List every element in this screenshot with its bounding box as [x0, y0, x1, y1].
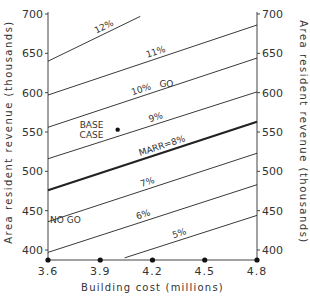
- x-axis-marker: [254, 257, 259, 262]
- base-case-point: [115, 127, 119, 131]
- y-tick-label-right: 700: [262, 8, 283, 21]
- annotation-no-go: NO GO: [50, 215, 81, 225]
- x-tick-label: 3.6: [38, 265, 59, 278]
- annotation-go: GO: [159, 79, 173, 89]
- chart: 4004004504505005005505506006006506507007…: [0, 0, 310, 296]
- iso-line-7: [48, 153, 257, 221]
- x-tick-label: 4.5: [195, 265, 216, 278]
- x-axis-marker: [150, 257, 155, 262]
- x-axis-marker: [45, 257, 50, 262]
- iso-line-11: [48, 25, 257, 95]
- line-label: 12%: [93, 18, 116, 36]
- line-label: MARR=8%: [138, 133, 187, 158]
- iso-line-12: [48, 16, 140, 61]
- y-axis-title-left: Area resident revenue (thousands): [3, 20, 14, 244]
- y-tick-label-left: 450: [22, 205, 43, 218]
- y-axis-title-right: Area resident revenue (thousands): [298, 20, 309, 244]
- line-label: 11%: [145, 44, 168, 60]
- x-axis-marker: [202, 257, 207, 262]
- y-tick-label-right: 650: [262, 47, 283, 60]
- x-tick-label: 3.9: [90, 265, 111, 278]
- x-tick-label: 4.8: [247, 265, 268, 278]
- y-tick-label-left: 550: [22, 126, 43, 139]
- y-tick-label-left: 650: [22, 47, 43, 60]
- annotation-case: CASE: [80, 130, 104, 140]
- y-tick-label-left: 500: [22, 165, 43, 178]
- x-axis-marker: [98, 257, 103, 262]
- iso-line-5: [125, 215, 257, 257]
- y-tick-label-left: 600: [22, 87, 43, 100]
- y-tick-label-right: 600: [262, 87, 283, 100]
- x-axis-title: Building cost (millions): [81, 282, 224, 293]
- line-label: 10%: [130, 81, 153, 97]
- y-tick-label-right: 450: [262, 205, 283, 218]
- y-tick-label-right: 550: [262, 126, 283, 139]
- y-tick-label-right: 400: [262, 244, 283, 257]
- y-tick-label-right: 500: [262, 165, 283, 178]
- annotation-base: BASE: [80, 120, 104, 130]
- x-tick-label: 4.2: [142, 265, 163, 278]
- y-tick-label-left: 400: [22, 244, 43, 257]
- y-tick-label-left: 700: [22, 8, 43, 21]
